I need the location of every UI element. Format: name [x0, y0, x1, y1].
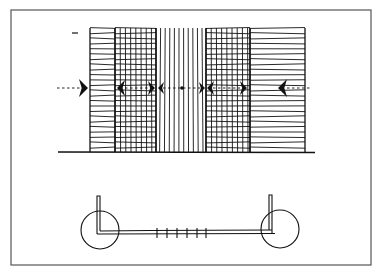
beam-bottom — [97, 234, 275, 235]
hatch-line — [206, 95, 250, 96]
hatch-line — [115, 147, 156, 148]
hatch-line — [250, 111, 305, 112]
hatch-line — [90, 85, 115, 86]
center-dot — [180, 86, 184, 90]
hatch-line — [206, 142, 250, 143]
hatch-line — [206, 43, 250, 44]
hatch-line — [90, 38, 115, 39]
strip-line — [197, 28, 198, 152]
hatch-line — [90, 33, 115, 34]
hatch-line — [115, 116, 156, 117]
hatch-line — [250, 95, 305, 96]
facade-elevation — [57, 28, 315, 153]
hatch-line — [115, 142, 156, 143]
hatch-line — [115, 95, 156, 96]
hatch-line — [115, 137, 156, 138]
hatch-line — [206, 28, 250, 29]
hatch-line — [250, 69, 305, 70]
left-post — [97, 196, 100, 234]
hatch-line — [90, 69, 115, 70]
hatch-line — [90, 147, 115, 148]
hatch-line — [250, 59, 305, 60]
section-drawing — [81, 195, 299, 249]
hatch-line — [206, 126, 250, 127]
hatch-line — [90, 142, 115, 143]
strip-line — [169, 28, 170, 152]
section-vertical-strip — [156, 28, 206, 152]
hatch-line — [250, 90, 305, 91]
hatch-line — [250, 85, 305, 86]
right-column-circle — [261, 210, 299, 248]
hatch-line — [250, 137, 305, 138]
hatch-line — [90, 90, 115, 91]
section-hatched-left — [90, 28, 115, 152]
hatch-line — [206, 69, 250, 70]
hatch-line — [250, 147, 305, 148]
beam-top — [100, 230, 272, 231]
diagram-canvas — [0, 0, 380, 272]
ground-line — [58, 152, 315, 153]
grid-right-arrow-a-icon — [207, 81, 214, 95]
hatch-line — [115, 101, 156, 102]
hatch-line — [115, 111, 156, 112]
outer-left-arrow-icon — [79, 79, 88, 97]
hatch-line — [250, 142, 305, 143]
hatch-line — [90, 28, 115, 29]
strip-line — [164, 28, 165, 152]
hatch-line — [90, 95, 115, 96]
hatch-line — [250, 116, 305, 117]
grid-left-arrow-a-icon — [117, 80, 125, 96]
hatch-line — [90, 64, 115, 65]
hatch-line — [90, 116, 115, 117]
hatch-line — [206, 33, 250, 34]
hatch-line — [206, 38, 250, 39]
hatch-line — [250, 28, 305, 29]
hatch-line — [90, 111, 115, 112]
hatch-line — [250, 121, 305, 122]
architectural-sketch — [0, 0, 380, 272]
hatch-line — [250, 33, 305, 34]
hatch-line — [206, 116, 250, 117]
hatch-line — [250, 54, 305, 55]
hatch-line — [250, 126, 305, 127]
frame-border — [11, 10, 371, 265]
hatch-line — [90, 43, 115, 44]
outer-right-arrow-icon — [278, 79, 287, 97]
hatch-line — [250, 38, 305, 39]
hatch-line — [206, 80, 250, 81]
hatch-line — [206, 64, 250, 65]
hatch-line — [206, 147, 250, 148]
hatch-line — [206, 137, 250, 138]
hatch-line — [206, 54, 250, 55]
hatch-line — [206, 111, 250, 112]
hatch-line — [90, 121, 115, 122]
right-post — [269, 195, 272, 234]
section-plan — [81, 195, 299, 249]
strip-line — [193, 28, 194, 152]
hatch-line — [90, 59, 115, 60]
hatch-line — [206, 59, 250, 60]
hatch-line — [115, 126, 156, 127]
hatch-line — [115, 121, 156, 122]
hatch-line — [206, 121, 250, 122]
hatch-line — [90, 100, 115, 101]
hatch-line — [90, 126, 115, 127]
section-hatched-right — [250, 28, 305, 152]
hatch-line — [250, 64, 305, 65]
grid-right-arrow-b-icon — [240, 81, 247, 95]
hatch-line — [250, 43, 305, 44]
